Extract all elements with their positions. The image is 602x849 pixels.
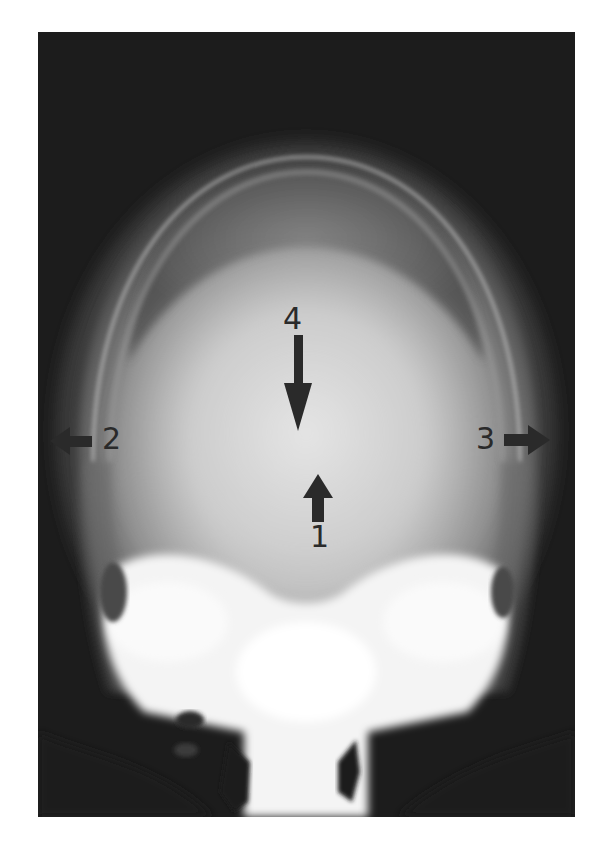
annotation-label-2: 2 — [102, 424, 121, 454]
arrow-right-icon — [504, 425, 550, 455]
arrow-down-icon — [283, 335, 313, 435]
annotation-label-4: 4 — [283, 304, 302, 334]
annotation-label-3: 3 — [476, 424, 495, 454]
arrow-up-icon — [302, 474, 334, 522]
skull-radiograph: 4 1 2 3 — [38, 32, 575, 817]
arrow-left-icon — [50, 427, 94, 455]
annotation-label-1: 1 — [310, 522, 329, 552]
